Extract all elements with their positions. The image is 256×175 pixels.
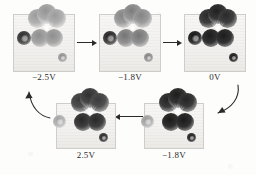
bottom-right-speckle [99,133,108,142]
left-satellite-dot [188,31,202,45]
panel-2-voltage-label: −1.8V [99,72,161,82]
stm-panel-3[interactable] [184,14,246,72]
panel-4-voltage-label: 2.5V [56,150,116,160]
arrow-head [177,40,182,46]
crown-lobe-right [218,9,237,28]
stm-panel-5[interactable] [144,103,204,149]
arrow-shaft [163,42,177,43]
arrow-head [92,40,97,46]
stm-panel-4[interactable] [56,103,116,149]
arrow-panel1-to-panel2 [77,39,97,46]
lower-lobe-right [45,29,63,47]
panel-5-voltage-label: −1.8V [144,150,204,160]
lower-lobe-right [88,113,106,131]
arrow-panel5-to-panel4 [115,113,143,120]
arrow-panel2-to-panel3 [163,39,182,46]
bottom-right-speckle [144,53,153,62]
stm-panel-1[interactable] [13,14,75,72]
panel-1-voltage-label: −2.5V [13,72,75,82]
crown-lobe-right [178,93,197,112]
crown-lobe-right [47,9,66,28]
bottom-right-speckle [187,133,196,142]
arrow-shaft [77,42,92,43]
lower-lobe-right [176,113,194,131]
bottom-right-speckle [58,53,67,62]
figure-root: −2.5V −1.8V [0,0,256,175]
lower-lobe-right [131,29,149,47]
left-satellite-dot [103,31,117,45]
left-satellite-dot [17,31,31,45]
panel-3-voltage-label: 0V [184,72,246,82]
curved-arrow-svg [14,86,58,120]
bottom-right-speckle [229,53,238,62]
crown-lobe-right [133,9,152,28]
arrow-panel4-to-panel1 [14,86,58,120]
arrow-shaft [120,116,143,117]
crown-lobe-right [90,93,109,112]
stm-panel-2[interactable] [99,14,161,72]
lower-lobe-right [216,29,234,47]
